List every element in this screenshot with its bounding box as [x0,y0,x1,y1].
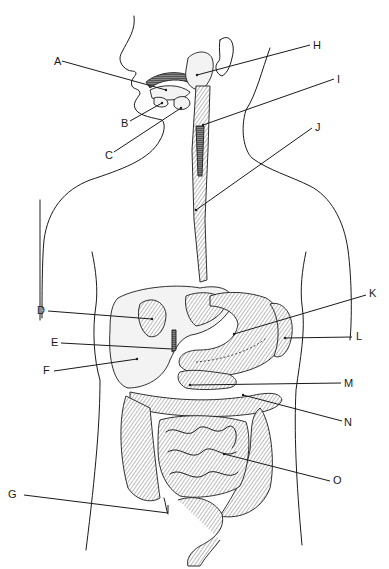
label-f: F [43,365,50,376]
anatomy-illustration [0,0,389,569]
label-l: L [356,331,362,342]
gallbladder [172,330,176,352]
label-m: M [344,378,353,389]
label-i: I [337,74,340,85]
label-d: D [37,305,45,316]
label-a: A [54,56,61,67]
label-o: O [333,475,342,486]
label-n: N [344,417,352,428]
digestive-system-diagram: A B C D E F G H I J K L M N O [0,0,389,569]
label-j: J [315,122,321,133]
label-b: B [121,118,128,129]
esophagus [192,86,210,282]
label-g: G [8,489,17,500]
label-k: K [369,288,376,299]
label-h: H [313,40,321,51]
label-e: E [51,337,58,348]
appendix [164,498,168,514]
label-c: C [105,150,113,161]
